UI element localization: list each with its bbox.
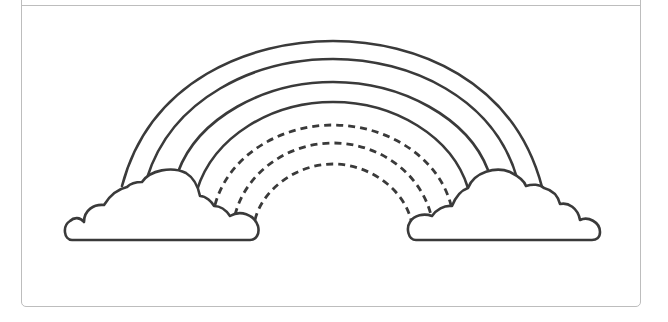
- rainbow-arc-solid-3: [178, 82, 488, 172]
- cloud-left: [65, 170, 259, 240]
- cloud-right: [408, 170, 600, 240]
- rainbow-arc-dashed-3: [255, 164, 411, 220]
- rainbow-arc-dashed-2: [235, 143, 431, 215]
- rainbow-arc-solid-4: [197, 102, 468, 190]
- rainbow-illustration: [0, 0, 668, 322]
